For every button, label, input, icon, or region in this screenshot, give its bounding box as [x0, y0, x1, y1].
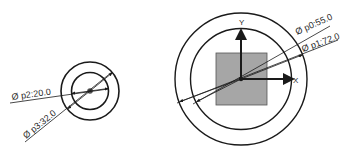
- y-axis-label: Y: [239, 18, 245, 27]
- cad-diagram: Ø p2:20.0 Ø p3:32.0 Y X Ø p0:55.0 Ø p1:7…: [0, 0, 351, 156]
- x-axis-label: X: [293, 76, 299, 85]
- dimension-label-p1: Ø p1:72.0: [300, 31, 341, 54]
- dimension-label-p3: Ø p3:32.0: [21, 108, 58, 141]
- dimension-label-p0: Ø p0:55.0: [294, 12, 334, 37]
- right-circle-assembly: [175, 13, 338, 145]
